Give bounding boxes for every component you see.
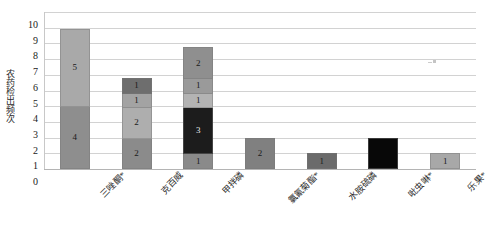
- bar-group[interactable]: 1: [430, 153, 460, 169]
- bar-segment-value-label: 2: [258, 149, 263, 158]
- x-tick-label: 水胺硫磷: [346, 170, 379, 203]
- bar-segment-value-label: 2: [196, 59, 201, 68]
- bar-group[interactable]: 2211: [122, 75, 152, 169]
- y-tick-label: 5: [33, 97, 38, 108]
- bar-segment-value-label: 4: [73, 133, 78, 142]
- bar-segment[interactable]: 2: [122, 138, 152, 169]
- gridline: [44, 122, 476, 123]
- gridline: [44, 59, 476, 60]
- bar-segment-value-label: 1: [196, 96, 201, 105]
- x-tick-label: 乐果*: [466, 170, 485, 193]
- y-tick-label: 4: [33, 113, 38, 124]
- y-tick-label: 7: [33, 66, 38, 77]
- stacked-bar[interactable]: 13112: [183, 43, 213, 169]
- y-axis-title: 农药检出频次: [2, 26, 18, 166]
- stacked-bar[interactable]: [368, 138, 398, 169]
- gridline: [44, 28, 476, 29]
- stacked-bar[interactable]: 2211: [122, 75, 152, 169]
- bar-segment[interactable]: 1: [183, 93, 213, 109]
- y-tick-label: 1: [33, 160, 38, 171]
- bar-segment-value-label: 1: [443, 157, 448, 166]
- bar-segment[interactable]: 2: [245, 138, 275, 169]
- bar-segment-value-label: 1: [134, 96, 139, 105]
- bar-segment-value-label: 1: [196, 157, 201, 166]
- scan-artifact-dash: [428, 62, 432, 63]
- bar-segment[interactable]: 3: [183, 107, 213, 154]
- bar-group[interactable]: 2: [245, 138, 275, 169]
- bar-segment[interactable]: 4: [60, 106, 90, 169]
- stacked-bar[interactable]: 2: [245, 138, 275, 169]
- bar-group[interactable]: [368, 138, 398, 169]
- bar-segment-value-label: 5: [73, 63, 78, 72]
- stacked-bar[interactable]: 1: [307, 153, 337, 169]
- bar-segment[interactable]: 2: [183, 47, 213, 78]
- y-tick-label: 6: [33, 81, 38, 92]
- bar-segment-value-label: 1: [196, 81, 201, 90]
- gridline: [44, 43, 476, 44]
- bar-segment[interactable]: 2: [122, 107, 152, 138]
- bar-segment[interactable]: 1: [307, 153, 337, 169]
- stacked-bar[interactable]: 45: [60, 28, 90, 169]
- bar-segment-value-label: 1: [134, 81, 139, 90]
- gridline: [44, 75, 476, 76]
- y-tick-label: 8: [33, 50, 38, 61]
- gridline: [44, 12, 476, 13]
- bar-segment[interactable]: 1: [122, 78, 152, 94]
- y-tick-label: 10: [28, 19, 38, 30]
- stacked-bar[interactable]: 1: [430, 153, 460, 169]
- bar-segment-value-label: 2: [134, 149, 139, 158]
- bar-segment-value-label: 3: [196, 126, 201, 135]
- bar-group[interactable]: 45: [60, 28, 90, 169]
- x-tick-label: 吡虫啉*: [407, 170, 436, 199]
- bar-segment-value-label: 1: [319, 157, 324, 166]
- bar-segment[interactable]: 1: [183, 78, 213, 94]
- scan-artifact-mark: [428, 60, 437, 64]
- bar-segment[interactable]: 1: [183, 153, 213, 169]
- y-tick-label: 0: [33, 176, 38, 187]
- plot-area: 45221113112211: [44, 12, 476, 169]
- y-tick-label: 2: [33, 144, 38, 155]
- bar-group[interactable]: 1: [307, 153, 337, 169]
- y-axis-tick-labels: 012345678910: [18, 12, 40, 169]
- x-axis-tick-labels: 三唑酮*克百威甲拌磷氯氰菊酯*水胺硫磷吡虫啉*乐果*: [44, 170, 476, 225]
- bar-segment[interactable]: 1: [430, 153, 460, 169]
- x-tick-label: 三唑酮*: [98, 170, 127, 199]
- gridline: [44, 106, 476, 107]
- x-tick-label: 甲拌磷: [220, 170, 246, 196]
- bar-segment-value-label: 2: [134, 118, 139, 127]
- bar-segment[interactable]: 5: [60, 29, 90, 108]
- y-axis-line: [44, 12, 45, 169]
- x-tick-label: 氯氰菊酯*: [286, 170, 322, 206]
- bar-segment[interactable]: 1: [122, 93, 152, 109]
- scan-artifact-dot: [433, 60, 436, 63]
- x-tick-label: 克百威: [158, 170, 184, 196]
- stacked-bar-chart: 农药检出频次 012345678910 45221113112211 三唑酮*克…: [0, 0, 485, 227]
- y-tick-label: 9: [33, 34, 38, 45]
- bar-segment[interactable]: [368, 138, 398, 169]
- y-tick-label: 3: [33, 128, 38, 139]
- gridline: [44, 91, 476, 92]
- bar-group[interactable]: 13112: [183, 43, 213, 169]
